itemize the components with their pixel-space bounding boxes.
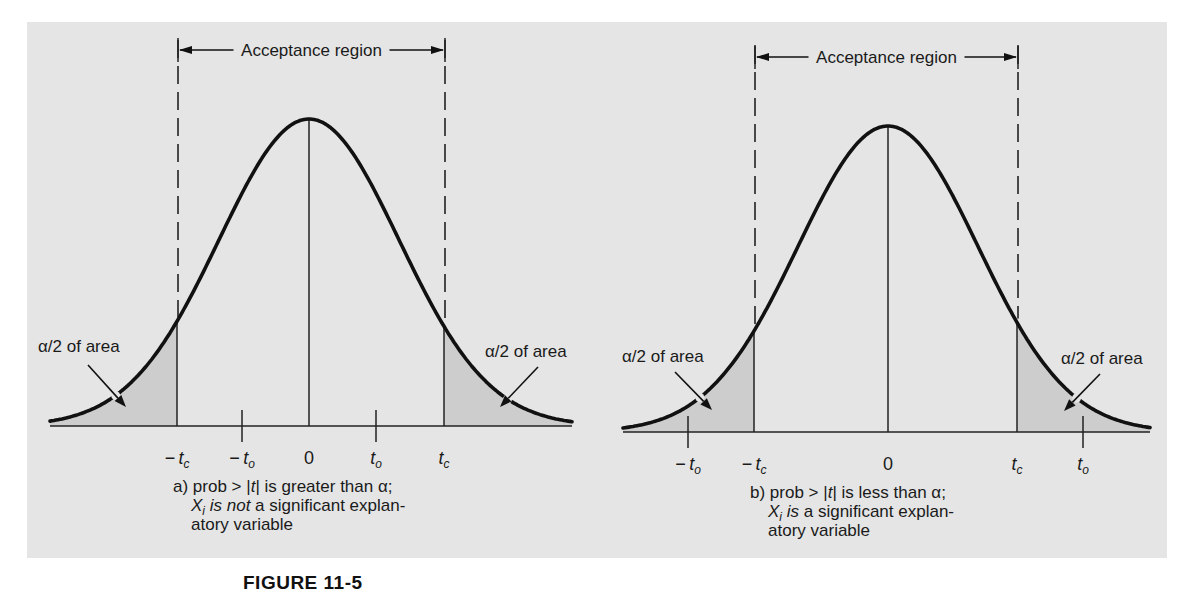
caption-line: atory variable (191, 515, 293, 534)
acceptance-region-label: Acceptance region (241, 41, 382, 60)
figure-11-5: Acceptance regionα/2 of areaα/2 of area−… (0, 0, 1180, 597)
figure-title: FIGURE 11-5 (243, 572, 363, 593)
caption-line: b) prob > |t| is less than α; (750, 483, 946, 502)
acceptance-region-label: Acceptance region (816, 48, 957, 67)
caption-line: a) prob > |t| is greater than α; (173, 477, 393, 496)
tick-label: 0 (883, 454, 893, 474)
alpha-half-area-label: α/2 of area (1061, 349, 1143, 368)
alpha-half-area-label: α/2 of area (38, 337, 120, 356)
alpha-half-area-label: α/2 of area (622, 347, 704, 366)
alpha-half-area-label: α/2 of area (485, 342, 567, 361)
caption-line: atory variable (768, 521, 870, 540)
tick-label: 0 (304, 448, 314, 468)
